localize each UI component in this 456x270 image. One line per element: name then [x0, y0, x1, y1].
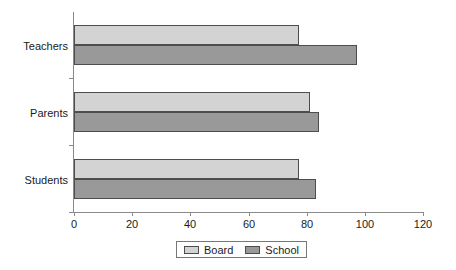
bar-students-school [74, 179, 316, 199]
legend-entry-school: School [245, 244, 299, 256]
category-label-teachers: Teachers [0, 40, 68, 53]
value-tick-120 [423, 212, 424, 216]
bar-teachers-school [74, 45, 357, 65]
plot-area [74, 12, 424, 212]
legend-label-school: School [265, 244, 299, 256]
legend-swatch-school-icon [245, 246, 260, 254]
category-tick-1 [69, 78, 73, 79]
value-tick-label-60: 60 [229, 218, 269, 231]
bar-parents-school [74, 112, 319, 132]
value-tick-label-80: 80 [287, 218, 327, 231]
chart-legend: Board School [176, 241, 307, 258]
value-tick-100 [365, 212, 366, 216]
value-tick-40 [190, 212, 191, 216]
value-tick-label-20: 20 [112, 218, 152, 231]
bar-chart: Teachers Parents Students 0 20 40 60 80 … [0, 0, 456, 270]
value-tick-60 [249, 212, 250, 216]
category-tick-3 [69, 212, 73, 213]
bar-teachers-board [74, 25, 299, 45]
category-label-parents: Parents [0, 107, 68, 120]
category-tick-2 [69, 145, 73, 146]
legend-entry-board: Board [184, 244, 233, 256]
category-label-students: Students [0, 174, 68, 187]
bar-students-board [74, 159, 299, 179]
bar-parents-board [74, 92, 310, 112]
value-tick-0 [74, 212, 75, 216]
value-tick-20 [132, 212, 133, 216]
value-tick-80 [307, 212, 308, 216]
value-tick-label-40: 40 [170, 218, 210, 231]
legend-swatch-board-icon [184, 246, 199, 254]
legend-label-board: Board [204, 244, 233, 256]
value-tick-label-0: 0 [54, 218, 94, 231]
value-tick-label-120: 120 [403, 218, 443, 231]
value-tick-label-100: 100 [345, 218, 385, 231]
